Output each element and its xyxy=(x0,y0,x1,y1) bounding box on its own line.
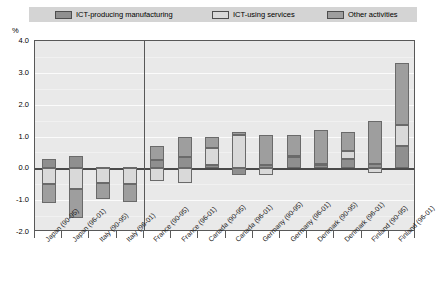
bar-segment-svc xyxy=(232,135,246,168)
bar-segment-mfg xyxy=(69,156,83,169)
bar-segment-oth xyxy=(368,121,382,164)
bar-canada-90-95 xyxy=(205,41,219,232)
bar-segment-oth xyxy=(314,130,328,163)
bar-segment-oth xyxy=(178,137,192,158)
bar-segment-mfg xyxy=(232,168,246,174)
gridline-minor xyxy=(35,184,414,185)
gridline xyxy=(35,105,414,106)
bar-segment-mfg xyxy=(205,165,219,168)
plot-area xyxy=(34,40,415,231)
gridline xyxy=(35,137,414,138)
bar-segment-mfg xyxy=(178,157,192,168)
bar-finland-96-01 xyxy=(395,41,409,232)
bar-segment-oth xyxy=(96,183,110,199)
legend-label-oth: Other activities xyxy=(348,10,398,19)
gridline-minor xyxy=(35,57,414,58)
y-tick-label: -1.0 xyxy=(16,195,29,204)
gridline xyxy=(35,200,414,201)
bar-segment-oth xyxy=(123,184,137,202)
bar-segment-mfg xyxy=(150,160,164,168)
bar-segment-oth xyxy=(232,132,246,135)
y-tick-label: 4.0 xyxy=(19,36,29,45)
bar-segment-svc xyxy=(96,168,110,182)
legend-swatch-oth xyxy=(327,11,344,19)
bar-segment-svc xyxy=(368,168,382,173)
gridline-minor xyxy=(35,89,414,90)
legend-swatch-mfg xyxy=(55,11,72,19)
bar-segment-oth xyxy=(395,63,409,125)
y-tick-label: 0.0 xyxy=(19,163,29,172)
y-tick-label: 1.0 xyxy=(19,131,29,140)
bar-germany-90-95 xyxy=(259,41,273,232)
bar-segment-svc xyxy=(341,151,355,159)
legend-label-svc: ICT-using services xyxy=(233,10,295,19)
bar-italy-90-95 xyxy=(96,41,110,232)
bar-segment-oth xyxy=(259,135,273,165)
bar-segment-svc xyxy=(69,168,83,189)
bar-segment-oth xyxy=(205,137,219,148)
bar-segment-mfg xyxy=(314,165,328,168)
gridline-minor xyxy=(35,152,414,153)
bar-segment-svc xyxy=(205,148,219,166)
bar-canada-96-01 xyxy=(232,41,246,232)
bar-segment-svc xyxy=(150,168,164,181)
legend-item-ict-producing-manufacturing: ICT-producing manufacturing xyxy=(55,7,173,22)
bar-segment-svc xyxy=(178,168,192,182)
bar-segment-svc xyxy=(287,156,301,158)
bar-segment-mfg xyxy=(42,159,56,169)
bar-japan-96-01 xyxy=(69,41,83,232)
zero-baseline xyxy=(35,168,414,169)
chart-legend: ICT-producing manufacturing ICT-using se… xyxy=(29,7,417,22)
y-axis-unit-label: % xyxy=(12,26,19,35)
bar-segment-svc xyxy=(395,125,409,146)
y-tick-label: 2.0 xyxy=(19,99,29,108)
y-tick-label: -2.0 xyxy=(16,227,29,236)
y-tick-label: 3.0 xyxy=(19,67,29,76)
bar-italy-96-01 xyxy=(123,41,137,232)
bar-segment-mfg xyxy=(341,159,355,169)
bar-segment-svc xyxy=(259,168,273,174)
bar-segment-svc xyxy=(314,164,328,166)
bar-segment-oth xyxy=(150,146,164,160)
x-axis-tick-labels: Japan (90-95)Japan (96-01)Italy (90-95)I… xyxy=(0,236,417,288)
bar-france-90-95 xyxy=(150,41,164,232)
legend-label-mfg: ICT-producing manufacturing xyxy=(76,10,173,19)
bar-segment-oth xyxy=(341,132,355,151)
y-axis-tick-labels: 4.03.02.01.00.0-1.0-2.0 xyxy=(0,40,34,231)
bar-segment-oth xyxy=(287,135,301,156)
legend-item-other-activities: Other activities xyxy=(327,7,398,22)
gridline xyxy=(35,73,414,74)
bar-france-96-01 xyxy=(178,41,192,232)
bar-segment-svc xyxy=(42,168,56,184)
legend-item-ict-using-services: ICT-using services xyxy=(212,7,295,22)
bar-segment-mfg xyxy=(395,146,409,168)
bar-segment-mfg xyxy=(287,157,301,168)
legend-swatch-svc xyxy=(212,11,229,19)
bar-japan-90-95 xyxy=(42,41,56,232)
bar-segment-oth xyxy=(42,184,56,203)
gridline-minor xyxy=(35,121,414,122)
bar-segment-svc xyxy=(123,168,137,184)
group-divider xyxy=(144,41,145,230)
